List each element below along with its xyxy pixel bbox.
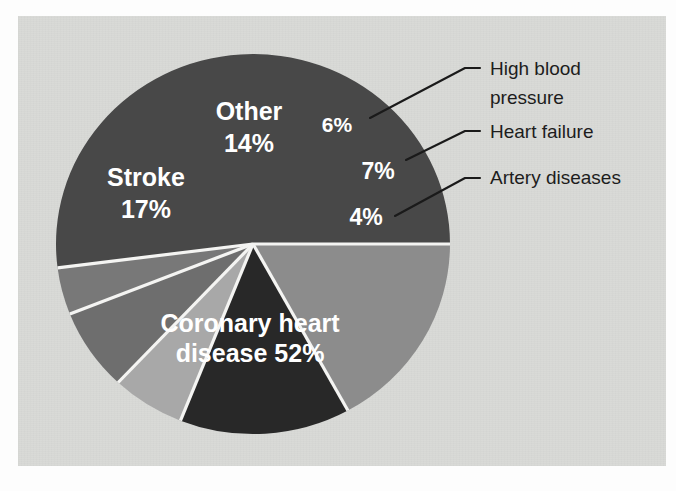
slice-label-stroke-name: Stroke [107,163,185,191]
slice-label-artery-diseases-value: 4% [349,204,382,230]
slice-label-coronary-heart-disease-line2: disease 52% [176,339,325,367]
slice-label-coronary-heart-disease-line1: Coronary heart [160,309,340,337]
callout-label-heart-failure: Heart failure [490,121,594,142]
callout-label-artery-diseases: Artery diseases [490,167,621,188]
callout-label-high-blood-pressure-line1: High blood [490,58,581,79]
slice-label-other-value: 14% [224,129,274,157]
callout-label-high-blood-pressure-line2: pressure [490,87,564,108]
pie-chart-figure: Coronary heart disease 52% 4% 7% 6% Othe… [0,0,676,491]
leader-line-high-blood-pressure [370,68,480,118]
slice-label-heart-failure-value: 7% [361,158,394,184]
slice-label-high-blood-pressure-value: 6% [322,113,353,136]
slice-label-other-name: Other [216,97,283,125]
pie-chart-canvas: Coronary heart disease 52% 4% 7% 6% Othe… [0,0,676,491]
slice-label-stroke-value: 17% [121,195,171,223]
